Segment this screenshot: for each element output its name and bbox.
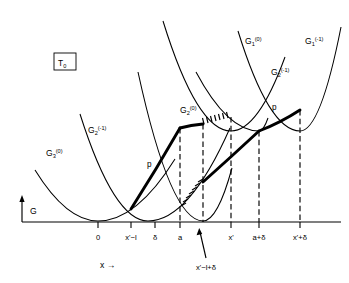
curve-label-G1-minus1: G1(-1) xyxy=(305,36,324,47)
curve-label-G3-0: G3(0) xyxy=(46,148,63,159)
curve-G2-0 xyxy=(138,72,232,221)
curve-label-G2-minus1: G2(-1) xyxy=(88,125,107,136)
x-axis-ticks xyxy=(98,222,300,228)
drop-lines-group xyxy=(180,110,300,222)
curve-label-G2-minus1-right: G2(-1) xyxy=(271,67,290,78)
temperature-label-box: T0 xyxy=(54,53,76,70)
curve-label-G2-0: G2(0) xyxy=(180,105,197,116)
x-tick-label-a-plus-delta: a+δ xyxy=(253,233,266,242)
curve-labels-group: G3(0) G2(-1) G2(0) G1(0) G2(-1) G1(-1) xyxy=(46,36,324,159)
x-tick-label-x-prime: x' xyxy=(228,233,234,242)
hatched-upper xyxy=(203,112,229,124)
bold-plateau-top xyxy=(180,124,203,128)
curve-G3-0 xyxy=(35,159,175,221)
callout-label-x-prime-minus-l-plus-delta: x'−l+δ xyxy=(196,263,216,272)
tangent-label-p-left: p xyxy=(147,160,152,169)
diagram-canvas: T0 G3(0) G2(-1) G2(0) G1(0) G2(-1) G1(-1… xyxy=(0,0,349,283)
temperature-label: T0 xyxy=(58,58,66,69)
x-tick-label-x-prime-min-l: x'−l xyxy=(125,233,137,242)
tangent-label-p-right: p xyxy=(272,103,277,112)
x-tick-label-origin: 0 xyxy=(96,233,100,242)
curve-G2-minus1-right xyxy=(196,72,268,131)
y-axis-arrowhead xyxy=(19,195,24,202)
bold-tangent-far-right xyxy=(259,110,300,131)
x-axis-label: x → xyxy=(100,260,115,270)
curves-group xyxy=(35,21,341,221)
hatched-lower xyxy=(181,179,203,206)
x-tick-label-delta: δ xyxy=(153,233,157,242)
y-axis-label: G xyxy=(30,206,37,216)
callout-arrow xyxy=(197,228,206,258)
x-tick-label-xp-plus-delta: x'+δ xyxy=(293,233,307,242)
free-energy-diagram: T0 G3(0) G2(-1) G2(0) G1(0) G2(-1) G1(-1… xyxy=(0,0,349,283)
x-tick-label-a: a xyxy=(178,233,183,242)
curve-label-G1-0: G1(0) xyxy=(245,36,262,47)
temperature-sub: 0 xyxy=(63,63,66,69)
